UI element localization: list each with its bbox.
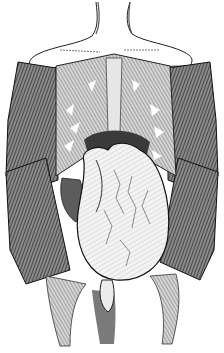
right-thigh	[150, 274, 179, 344]
left-thigh	[46, 276, 86, 346]
anatomical-illustration	[0, 0, 224, 353]
caption	[60, 344, 160, 350]
sternum	[106, 58, 122, 132]
left-lower-flap	[6, 158, 70, 284]
